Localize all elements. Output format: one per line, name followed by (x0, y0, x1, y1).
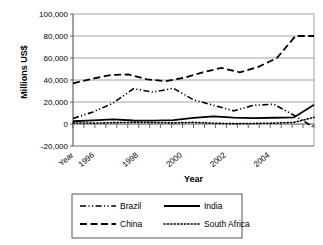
y-tick-label: 80,000 (44, 32, 69, 41)
legend-label-india: India (204, 201, 223, 211)
legend-label-china: China (120, 219, 142, 229)
legend-label-south-africa: South Africa (204, 219, 250, 229)
x-tick-label: 2000 (164, 150, 184, 169)
line-chart: 100,00080,00060,00040,00020,0000-20,000M… (0, 0, 323, 245)
x-axis-title-text: Year (184, 174, 204, 184)
x-origin-label: Year (57, 150, 75, 168)
x-axis-ticks (73, 124, 314, 128)
x-tick-label: 2004 (252, 150, 272, 169)
y-axis-title-text: Millions US$ (19, 45, 29, 99)
y-tick-label: 60,000 (44, 54, 69, 63)
x-axis-tick-labels: Year19961998200020022004 (57, 150, 272, 169)
chart-legend: BrazilIndiaChinaSouth Africa (72, 194, 250, 238)
legend-label-brazil: Brazil (120, 201, 141, 211)
x-tick-label: 1996 (77, 150, 97, 169)
y-axis-tick-labels: 100,00080,00060,00040,00020,0000-20,000 (39, 10, 73, 151)
series-line-china (73, 36, 314, 83)
x-tick-label: 1998 (121, 150, 141, 169)
x-tick-label: 2002 (208, 150, 228, 169)
y-axis-title: Millions US$ (19, 45, 29, 99)
y-tick-label: 20,000 (44, 98, 69, 107)
series-group (73, 36, 314, 127)
y-tick-label: -20,000 (41, 142, 69, 151)
chart-container: 100,00080,00060,00040,00020,0000-20,000M… (0, 0, 323, 245)
y-tick-label: 40,000 (44, 76, 69, 85)
y-tick-label: 0 (64, 120, 69, 129)
series-line-brazil (73, 88, 314, 127)
y-tick-label: 100,000 (39, 10, 68, 19)
